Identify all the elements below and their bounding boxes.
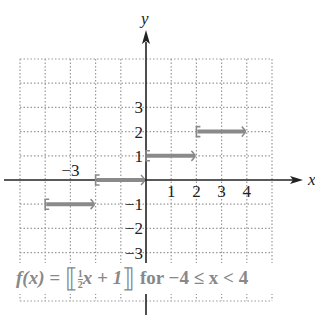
formula-lhs: f(x) = [16, 267, 65, 288]
y-tick-label: 2 [135, 123, 144, 142]
x-tick-label: 2 [192, 182, 201, 201]
left-bracket: ⟦ [65, 264, 78, 293]
x-axis-label: x [307, 170, 315, 189]
formula-domain: for −4 ≤ x < 4 [135, 267, 248, 288]
y-tick-label: 1 [135, 147, 144, 166]
y-tick-label: 3 [135, 98, 144, 117]
y-axis-arrow-icon [142, 30, 150, 44]
function-formula: f(x) = ⟦12x + 1⟧ for −4 ≤ x < 4 [16, 263, 278, 294]
x-tick-label: 4 [243, 182, 252, 201]
y-tick-label: −1 [125, 195, 143, 214]
x-tick-label: 3 [217, 182, 226, 201]
right-bracket: ⟧ [122, 264, 135, 293]
y-tick-label: −3 [125, 244, 143, 263]
y-tick-label: −2 [125, 219, 143, 238]
x-tick-label: 1 [167, 182, 176, 201]
x-tick-label: −3 [61, 161, 79, 180]
y-axis-label: y [139, 9, 149, 28]
formula-rest: x + 1 [83, 267, 122, 288]
